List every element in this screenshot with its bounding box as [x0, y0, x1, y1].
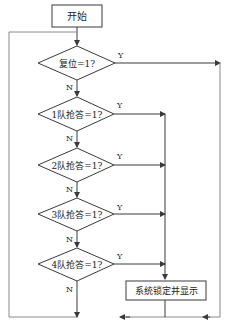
- process-lock-display: 系统锁定并显示: [126, 281, 206, 300]
- yes-label: Y: [116, 203, 123, 212]
- flowchart: 开始 复位=1? Y N 1队抢答=1? Y N 2队抢答=1? Y N 3队抢…: [0, 0, 228, 328]
- decision-team4-label: 4队抢答=1?: [52, 259, 103, 270]
- decision-team3: 3队抢答=1? Y N: [38, 198, 123, 244]
- no-label: N: [66, 83, 73, 92]
- yes-label: Y: [116, 101, 123, 110]
- no-label: N: [66, 235, 73, 244]
- decision-team4: 4队抢答=1? Y N: [38, 248, 123, 294]
- decision-team1-label: 1队抢答=1?: [52, 109, 103, 120]
- start-label: 开始: [67, 10, 87, 22]
- yes-label: Y: [117, 51, 124, 60]
- decision-reset: 复位=1? Y N: [38, 46, 124, 92]
- reset-return-line: [126, 62, 220, 317]
- yes-label: Y: [116, 252, 123, 261]
- yes-label: Y: [116, 152, 123, 161]
- no-label: N: [66, 134, 73, 143]
- decision-team2-label: 2队抢答=1?: [52, 160, 103, 171]
- decision-team1: 1队抢答=1? Y N: [38, 97, 123, 143]
- decision-team3-label: 3队抢答=1?: [52, 209, 103, 220]
- process-label: 系统锁定并显示: [135, 285, 198, 296]
- decision-team2: 2队抢答=1? Y N: [38, 148, 123, 194]
- no-label: N: [66, 285, 73, 294]
- no-label: N: [66, 185, 73, 194]
- start-node: 开始: [52, 5, 102, 27]
- decision-reset-label: 复位=1?: [59, 58, 95, 69]
